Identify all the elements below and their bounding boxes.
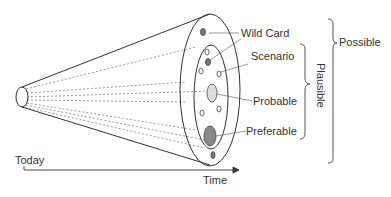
leader-lines (209, 33, 252, 136)
preferable-dot (204, 126, 216, 146)
probable-dot (207, 84, 217, 102)
futures-dots (199, 29, 221, 159)
wild-card-label: Wild Card (241, 28, 289, 39)
preferable-label: Preferable (246, 126, 297, 137)
possible-brace (328, 19, 337, 163)
today-origin-ellipse (16, 87, 28, 107)
today-label: Today (15, 155, 44, 166)
wild-card-dot (201, 29, 206, 36)
plausible-label: Plausible (315, 63, 326, 108)
time-label: Time (203, 175, 227, 186)
futures-cone-diagram (0, 0, 391, 197)
plausible-brace (300, 44, 310, 139)
cone (16, 14, 210, 165)
time-axis (24, 166, 239, 173)
possible-label: Possible (339, 37, 381, 48)
scenario-label: Scenario (251, 51, 294, 62)
scenario-dot (206, 59, 211, 66)
probable-label: Probable (253, 96, 297, 107)
